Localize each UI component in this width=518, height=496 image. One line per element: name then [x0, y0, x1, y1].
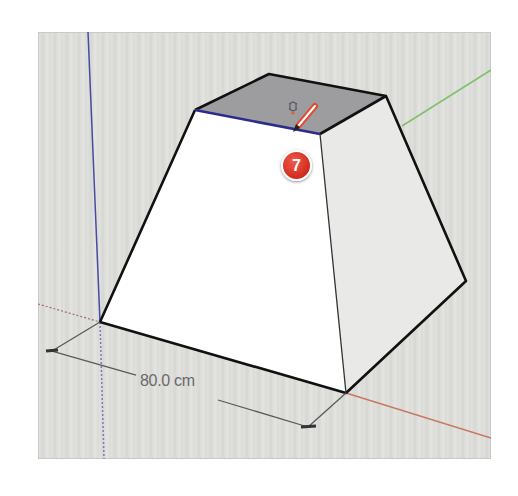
dimension-extension-left: [52, 322, 100, 351]
dimension-extension-right: [308, 393, 346, 427]
red-axis: [346, 393, 491, 438]
dimension-tick-left: [46, 350, 58, 351]
blue-axis: [88, 32, 100, 322]
dimension-label: 80.0 cm: [140, 372, 195, 390]
red-axis-hidden: [38, 304, 100, 322]
dimension-tick-right: [301, 426, 316, 427]
dimension-line-right: [218, 400, 308, 427]
dimension-line-left: [52, 351, 136, 375]
blue-axis-hidden: [100, 322, 104, 459]
model-scene: [0, 0, 518, 496]
step-number-badge: 7: [281, 150, 312, 181]
front-face[interactable]: [100, 110, 346, 393]
green-axis: [402, 70, 491, 126]
